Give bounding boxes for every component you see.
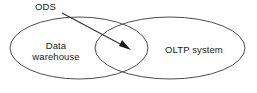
ods-label: ODS (35, 2, 56, 13)
oltp-system-label: OLTP system (148, 45, 240, 56)
venn-diagram: ODS Data warehouse OLTP system (0, 0, 257, 93)
data-warehouse-label-line2: warehouse (20, 52, 92, 63)
ods-arrow-head-icon (119, 40, 131, 50)
data-warehouse-label: Data warehouse (20, 41, 92, 62)
data-warehouse-label-line1: Data (20, 41, 92, 52)
